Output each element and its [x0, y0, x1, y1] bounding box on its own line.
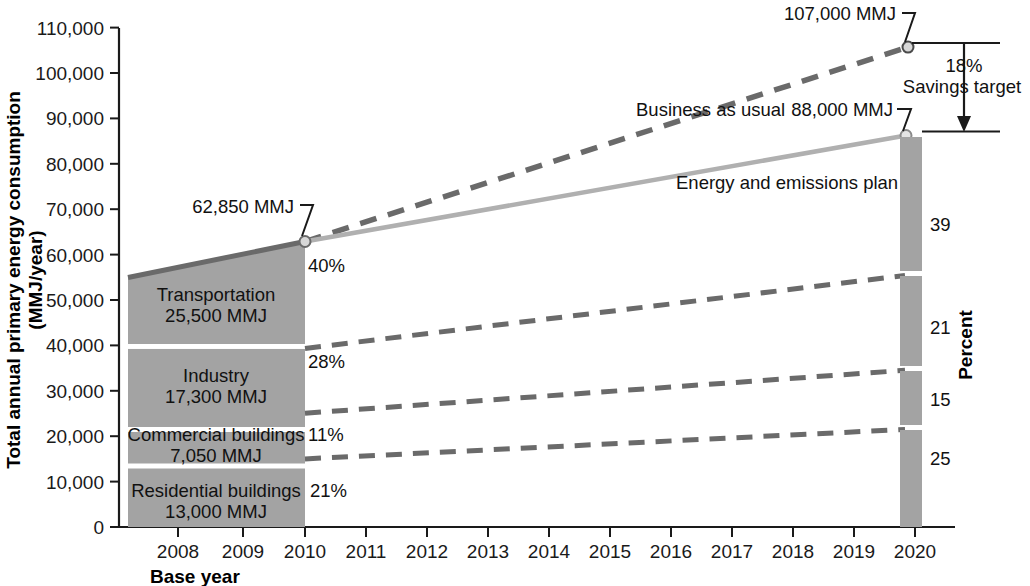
target-bar-segment-industry [900, 276, 922, 366]
callout-base-year-total-text: 62,850 MMJ [192, 196, 294, 217]
segment-divider [128, 344, 305, 349]
energy-consumption-chart: 0 10,000 20,000 30,000 40,000 50,000 60,… [0, 0, 1030, 586]
x-tick-label: 2011 [346, 541, 387, 562]
y-tick-label: 50,000 [46, 290, 104, 311]
x-tick-label: 2008 [157, 541, 199, 562]
series-label-business-as-usual: Business as usual [636, 99, 785, 120]
right-axis-title: Percent [955, 309, 976, 379]
y-tick-label: 30,000 [46, 381, 104, 402]
x-tick-label: 2009 [222, 541, 264, 562]
segment-label-transportation-value: 25,500 MMJ [165, 305, 267, 326]
target-percent-label-industry: 21 [930, 317, 951, 338]
business-as-usual-endpoint-marker [903, 42, 914, 53]
savings-target-percent: 18% [945, 55, 982, 76]
callout-business-as-usual-text: 107,000 MMJ [784, 3, 896, 24]
x-tick-label: 2019 [833, 541, 875, 562]
percent-label-transportation: 40% [308, 255, 345, 276]
segment-label-residential-buildings-value: 13,000 MMJ [165, 501, 267, 522]
y-tick-label: 110,000 [37, 18, 104, 39]
x-tick-label: 2020 [894, 541, 936, 562]
segment-label-industry-value: 17,300 MMJ [165, 386, 267, 407]
x-tick-label: 2010 [284, 541, 326, 562]
target-bar-segment-residential-buildings [900, 430, 922, 527]
callout-energy-plan-text: 88,000 MMJ [791, 99, 893, 120]
y-tick-label: 0 [93, 517, 104, 538]
y-tick-label: 90,000 [46, 108, 104, 129]
segment-label-industry-name: Industry [183, 365, 250, 386]
percent-label-industry: 28% [308, 351, 345, 372]
segment-label-commercial-buildings-name: Commercial buildings [128, 424, 305, 445]
x-tick-label: 2018 [772, 541, 814, 562]
chart-figure: 0 10,000 20,000 30,000 40,000 50,000 60,… [0, 0, 1030, 586]
y-tick-label: 10,000 [46, 472, 104, 493]
segment-label-residential-buildings-name: Residential buildings [131, 480, 301, 501]
y-tick-label: 40,000 [46, 335, 104, 356]
target-percent-label-commercial-buildings: 15 [930, 389, 951, 410]
y-tick-label: 80,000 [46, 154, 104, 175]
target-percent-label-transportation: 39 [930, 214, 951, 235]
y-tick-label: 100,000 [35, 63, 104, 84]
base-year-label: Base year [150, 566, 240, 586]
x-tick-label: 2014 [528, 541, 571, 562]
y-axis-title-line1: Total annual primary energy consumption [3, 91, 24, 469]
x-tick-label: 2013 [467, 541, 509, 562]
y-tick-label: 20,000 [46, 426, 104, 447]
x-tick-label: 2016 [650, 541, 692, 562]
y-tick-label: 60,000 [46, 245, 104, 266]
right-axis-title-text: Percent [955, 309, 976, 379]
savings-target-caption: Savings target [903, 76, 1021, 97]
x-tick-label: 2012 [406, 541, 448, 562]
y-axis-title-line2: (MMJ/year) [25, 230, 46, 329]
target-percent-label-residential-buildings: 25 [930, 448, 951, 469]
segment-label-commercial-buildings-value: 7,050 MMJ [170, 445, 262, 466]
base-year-point-marker [300, 236, 311, 247]
target-bar-segment-transportation [900, 137, 922, 271]
x-tick-label: 2017 [711, 541, 753, 562]
y-tick-label: 70,000 [46, 199, 104, 220]
percent-label-residential-buildings: 21% [310, 480, 347, 501]
series-label-energy-and-emissions-plan: Energy and emissions plan [676, 172, 898, 193]
segment-label-transportation-name: Transportation [157, 284, 276, 305]
percent-label-commercial-buildings: 11% [308, 424, 344, 445]
target-bar-segment-commercial-buildings [900, 371, 922, 425]
x-tick-label: 2015 [589, 541, 631, 562]
